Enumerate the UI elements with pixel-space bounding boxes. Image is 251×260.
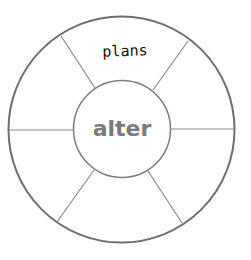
divider-top-right — [153, 41, 188, 90]
divider-bottom-right — [148, 171, 182, 223]
divider-bottom-left — [57, 170, 94, 222]
divider-top-left — [61, 36, 95, 88]
center-word: alter — [93, 116, 152, 141]
segment-label-top: plans — [102, 41, 148, 61]
word-wheel-diagram: alter plans — [0, 0, 251, 260]
